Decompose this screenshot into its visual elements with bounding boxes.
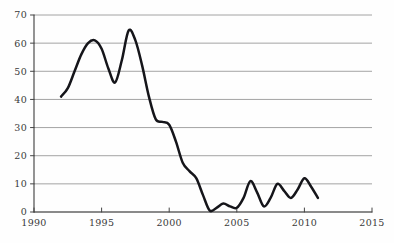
x-tick-label-2000: 2000	[157, 217, 182, 228]
x-tick-label-1990: 1990	[21, 217, 46, 228]
x-tick-marks	[34, 208, 372, 212]
y-axis-tick-labels: 010203040506070	[14, 9, 27, 217]
x-tick-label-1995: 1995	[89, 217, 114, 228]
x-axis-tick-labels: 199019952000200520102015	[21, 217, 384, 228]
y-tick-label-20: 20	[14, 150, 27, 161]
line-chart: 010203040506070 199019952000200520102015	[0, 0, 394, 243]
y-tick-label-70: 70	[14, 9, 27, 20]
x-tick-label-2010: 2010	[292, 217, 317, 228]
y-tick-label-50: 50	[14, 66, 27, 77]
y-tick-label-40: 40	[14, 94, 27, 105]
y-tick-label-30: 30	[14, 122, 27, 133]
chart-canvas: 010203040506070 199019952000200520102015	[0, 0, 394, 243]
y-tick-label-60: 60	[14, 38, 27, 49]
gridlines	[34, 15, 372, 212]
x-tick-label-2015: 2015	[359, 217, 384, 228]
x-tick-label-2005: 2005	[224, 217, 249, 228]
chart-axes	[34, 15, 372, 212]
y-tick-label-0: 0	[21, 206, 27, 217]
y-tick-label-10: 10	[14, 178, 27, 189]
